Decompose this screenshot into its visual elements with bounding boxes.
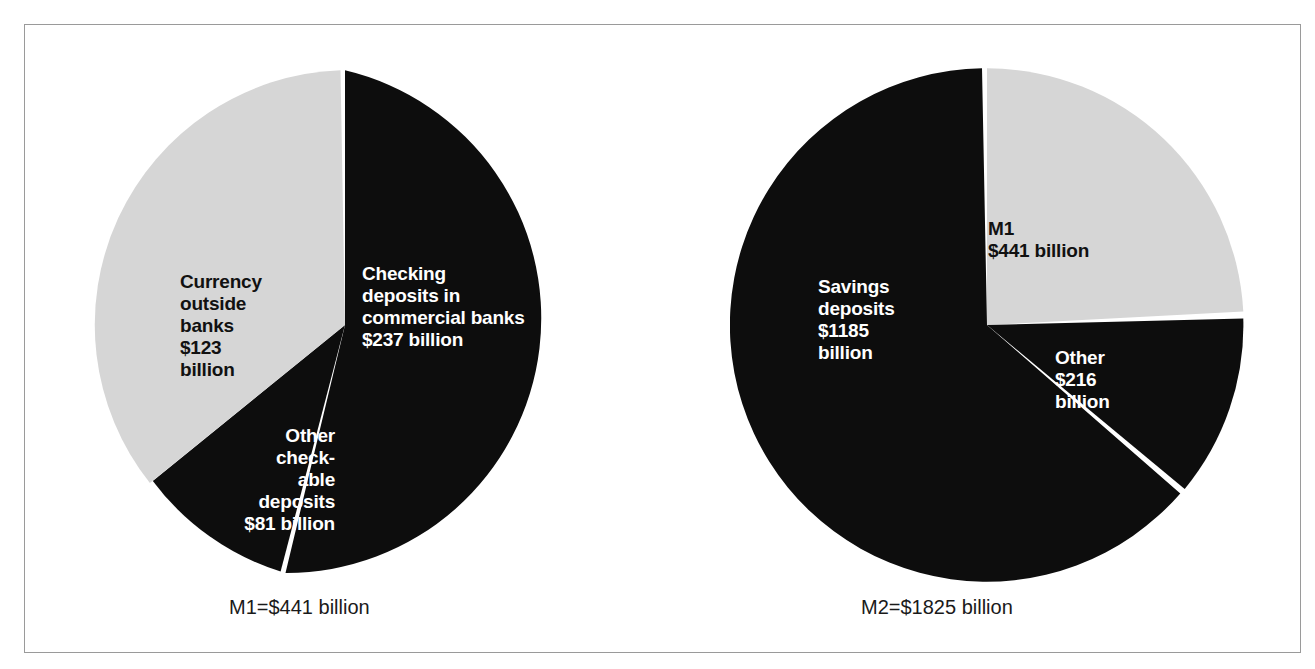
label-checking-deposits: Checking deposits in commercial banks $2… xyxy=(362,263,592,351)
right-pie-chart: M1 $441 billion Savings deposits $1185 b… xyxy=(730,68,1244,582)
label-other: Other $216 billion xyxy=(1055,347,1175,413)
right-pie-svg xyxy=(730,68,1244,582)
right-chart-caption: M2=$1825 billion xyxy=(861,596,1013,619)
slice-m1 xyxy=(987,68,1243,325)
left-pie-chart: Checking deposits in commercial banks $2… xyxy=(90,70,600,580)
money-supply-figure: Checking deposits in commercial banks $2… xyxy=(0,0,1315,669)
left-caption-text: M1=$441 billion xyxy=(229,596,370,618)
label-other-checkable-deposits: Other check- able deposits $81 billion xyxy=(152,425,335,535)
label-currency-outside-banks: Currency outside banks $123 billion xyxy=(180,271,310,381)
label-m1: M1 $441 billion xyxy=(988,218,1188,262)
label-savings-deposits: Savings deposits $1185 billion xyxy=(818,276,978,364)
right-caption-text: M2=$1825 billion xyxy=(861,596,1013,618)
left-chart-caption: M1=$441 billion xyxy=(229,596,370,619)
